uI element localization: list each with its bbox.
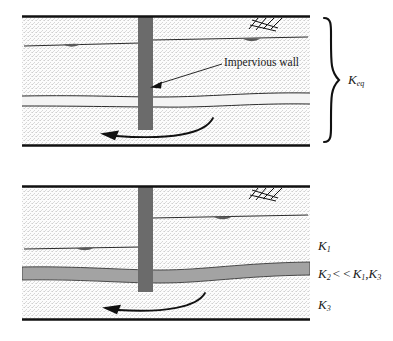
bottom-panel-drawing: [0, 171, 393, 341]
k2-inequality-label: K2< <K1,K3: [318, 267, 381, 282]
impervious-wall-annotation: Impervious wall: [224, 57, 299, 69]
k-eq-label: Keq: [348, 73, 364, 88]
k3-label: K3: [318, 298, 331, 313]
k1-label: K1: [318, 239, 331, 254]
k2-relation: < <: [331, 266, 353, 281]
soil-body: [22, 186, 310, 319]
k3-base: K: [318, 297, 327, 312]
k2-compare-a: K1: [353, 266, 366, 281]
impervious-wall: [138, 184, 153, 292]
bottom-panel-stage: [0, 171, 393, 341]
panel-equivalent-homogeneous: Impervious wall Keq: [0, 0, 393, 170]
equivalent-conductivity-brace: [324, 18, 339, 142]
soil-body: [22, 16, 310, 145]
impervious-wall: [138, 14, 153, 130]
k1-base: K: [318, 238, 327, 253]
k3-sub: 3: [327, 304, 331, 313]
k2-compare-b: K3: [369, 266, 382, 281]
top-panel-stage: [0, 0, 393, 170]
k-eq-base: K: [348, 72, 357, 87]
k-eq-sub: eq: [357, 79, 365, 88]
panel-layered-profile: K1 K2< <K1,K3 K3: [0, 171, 393, 341]
k2-base: K: [318, 266, 327, 281]
k1-sub: 1: [327, 245, 331, 254]
top-panel-drawing: [0, 0, 393, 170]
